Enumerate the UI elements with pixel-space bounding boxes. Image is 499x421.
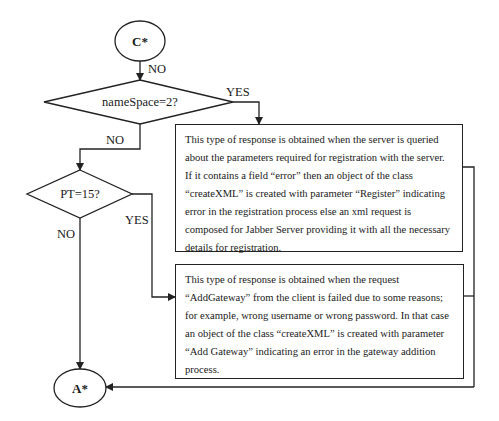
edge-label-d2-no: NO	[57, 227, 75, 241]
end-terminal-label: A*	[72, 381, 88, 396]
edge-d1-yes	[233, 102, 259, 124]
gateway-response-text: This type of response is obtained when t…	[185, 274, 449, 375]
edge-label-d1-no: NO	[106, 133, 124, 147]
edge-box1-out	[463, 167, 474, 387]
decision-pt-label: PT=15?	[60, 187, 100, 201]
register-response-box: This type of response is obtained when t…	[175, 124, 463, 252]
gateway-response-box: This type of response is obtained when t…	[175, 264, 464, 379]
edge-label-d1-yes: YES	[226, 85, 250, 99]
decision-namespace-label: nameSpace=2?	[102, 95, 178, 109]
register-response-text: This type of response is obtained when t…	[185, 134, 450, 253]
edge-label-d2-yes: YES	[125, 213, 149, 227]
start-terminal-label: C*	[132, 34, 148, 49]
edge-label-start-no: NO	[148, 62, 166, 76]
edge-d1-no	[80, 124, 140, 170]
edge-d2-yes	[132, 194, 175, 297]
